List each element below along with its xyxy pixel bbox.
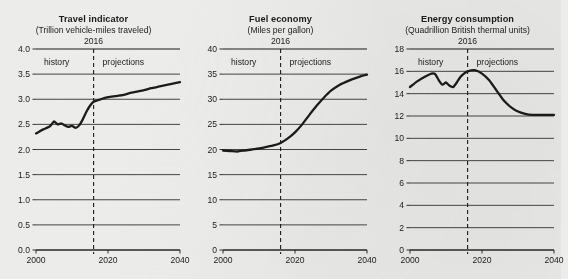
- y-axis-tick-label: 3.0: [0, 95, 30, 104]
- projections-label: projections: [290, 57, 332, 67]
- y-axis-tick-label: 4: [374, 201, 404, 210]
- history-label: history: [44, 57, 69, 67]
- y-axis-tick-label: 35: [187, 70, 217, 79]
- y-axis-tick-label: 2: [374, 223, 404, 232]
- y-axis-tick-label: 3.5: [0, 70, 30, 79]
- x-axis-tick-label: 2020: [88, 256, 128, 265]
- y-axis-tick-label: 1.0: [0, 195, 30, 204]
- y-axis-tick-label: 0: [374, 246, 404, 255]
- y-axis-tick-label: 4.0: [0, 45, 30, 54]
- y-axis-tick-label: 10: [374, 134, 404, 143]
- y-axis-tick-label: 2.0: [0, 145, 30, 154]
- y-axis-tick-label: 5: [187, 220, 217, 229]
- chart-panel-fuel-economy: Fuel economy (Miles per gallon) 2016hist…: [187, 0, 374, 279]
- projections-label: projections: [103, 57, 145, 67]
- divider-year-label: 2016: [438, 36, 498, 47]
- data-series-line: [223, 75, 367, 152]
- history-label: history: [418, 57, 443, 67]
- y-axis-tick-label: 0: [187, 246, 217, 255]
- y-axis-tick-label: 30: [187, 95, 217, 104]
- data-series-line: [36, 82, 180, 133]
- y-axis-tick-label: 14: [374, 89, 404, 98]
- y-axis-tick-label: 0.5: [0, 220, 30, 229]
- x-axis-tick-label: 2000: [390, 256, 430, 265]
- x-axis-tick-label: 2040: [534, 256, 568, 265]
- y-axis-tick-label: 16: [374, 67, 404, 76]
- projections-label: projections: [477, 57, 519, 67]
- y-axis-tick-label: 40: [187, 45, 217, 54]
- y-axis-tick-label: 18: [374, 45, 404, 54]
- x-axis-tick-label: 2020: [275, 256, 315, 265]
- y-axis-tick-label: 6: [374, 179, 404, 188]
- chart-panel-energy-consumption: Energy consumption (Quadrillion British …: [374, 0, 561, 279]
- y-axis-tick-label: 1.5: [0, 170, 30, 179]
- chart-panel-travel-indicator: Travel indicator (Trillion vehicle-miles…: [0, 0, 187, 279]
- y-axis-tick-label: 20: [187, 145, 217, 154]
- x-axis-tick-label: 2020: [462, 256, 502, 265]
- y-axis-tick-label: 12: [374, 112, 404, 121]
- x-axis-tick-label: 2000: [203, 256, 243, 265]
- y-axis-tick-label: 8: [374, 156, 404, 165]
- y-axis-tick-label: 10: [187, 195, 217, 204]
- divider-year-label: 2016: [64, 36, 124, 47]
- y-axis-tick-label: 0.0: [0, 246, 30, 255]
- x-axis-tick-label: 2000: [16, 256, 56, 265]
- y-axis-tick-label: 2.5: [0, 120, 30, 129]
- data-series-line: [410, 70, 554, 115]
- y-axis-tick-label: 25: [187, 120, 217, 129]
- history-label: history: [231, 57, 256, 67]
- divider-year-label: 2016: [251, 36, 311, 47]
- y-axis-tick-label: 15: [187, 170, 217, 179]
